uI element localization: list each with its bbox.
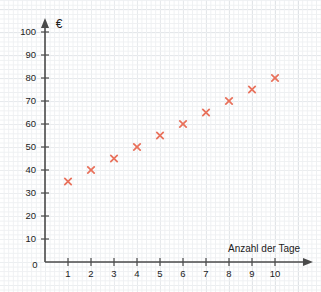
data-point-marker — [88, 167, 94, 173]
x-axis-ticks: 12345678910 — [65, 258, 280, 279]
data-point-marker — [226, 98, 232, 104]
x-axis-title: Anzahl der Tage — [228, 243, 301, 254]
y-tick-label: 90 — [25, 49, 36, 60]
data-point-marker — [249, 86, 255, 92]
data-point-marker — [157, 132, 163, 138]
data-point-marker — [180, 121, 186, 127]
data-point-marker — [272, 75, 278, 81]
y-tick-label: 30 — [25, 187, 36, 198]
origin-label: 0 — [32, 259, 37, 270]
scatter-chart: 102030405060708090100 12345678910 0 € An… — [0, 0, 321, 292]
x-tick-label: 7 — [203, 268, 208, 279]
x-tick-label: 9 — [249, 268, 254, 279]
y-tick-label: 70 — [25, 95, 36, 106]
y-tick-label: 10 — [25, 233, 36, 244]
data-point-marker — [134, 144, 140, 150]
y-tick-label: 40 — [25, 164, 36, 175]
x-tick-label: 5 — [157, 268, 162, 279]
y-tick-label: 20 — [25, 210, 36, 221]
plot-area: 102030405060708090100 12345678910 0 € An… — [0, 0, 321, 292]
x-tick-label: 2 — [88, 268, 93, 279]
x-tick-label: 8 — [226, 268, 231, 279]
data-point-marker — [65, 178, 71, 184]
y-tick-label: 60 — [25, 118, 36, 129]
x-tick-label: 10 — [270, 268, 281, 279]
x-axis-arrow-icon — [303, 258, 313, 266]
y-axis-arrow-icon — [41, 18, 49, 28]
x-tick-label: 3 — [111, 268, 116, 279]
y-axis-title: € — [56, 17, 63, 31]
data-point-marker — [203, 109, 209, 115]
x-axis — [45, 258, 313, 266]
x-tick-label: 4 — [134, 268, 139, 279]
x-tick-label: 6 — [180, 268, 185, 279]
x-tick-label: 1 — [65, 268, 70, 279]
y-tick-label: 100 — [20, 26, 36, 37]
y-tick-label: 80 — [25, 72, 36, 83]
data-points — [65, 75, 278, 185]
data-point-marker — [111, 155, 117, 161]
y-tick-label: 50 — [25, 141, 36, 152]
